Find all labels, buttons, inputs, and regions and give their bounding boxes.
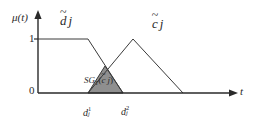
sg-prefix: SG <box>84 75 95 85</box>
subscript-j: j <box>88 111 90 117</box>
fuzzy-membership-figure: μ(t) 1 0 t ~dj ~cj SGT(~cj) d1j d2j <box>0 0 255 132</box>
d-subscript-j: j <box>69 13 73 28</box>
tilde-accent: ~ <box>101 71 105 79</box>
c-tilde-letter: ~c <box>152 17 158 30</box>
x-mark-label-d-j-1: d1j <box>83 108 88 118</box>
y-axis-arrowhead <box>34 10 41 19</box>
y-tick-label-zero: 0 <box>29 85 35 96</box>
x-axis-arrowhead <box>229 89 238 96</box>
d-tilde-letter: ~d <box>60 14 67 27</box>
d-letter-2: d2j <box>121 107 126 117</box>
d-tilde-curve-label: ~dj <box>60 14 72 27</box>
d-letter-1: d1j <box>83 108 88 118</box>
y-tick-label-one: 1 <box>29 33 35 44</box>
tilde-accent: ~ <box>152 10 158 22</box>
c-subscript-j: j <box>160 16 164 31</box>
x-axis-label: t <box>240 86 243 97</box>
c-tilde-curve-label: ~cj <box>152 17 163 30</box>
shaded-region-label: SGT(~cj) <box>84 76 113 86</box>
y-axis-label: μ(t) <box>12 12 28 23</box>
sg-close-paren: ) <box>110 75 113 85</box>
tilde-accent: ~ <box>60 7 66 19</box>
x-mark-label-d-j-2: d2j <box>121 107 126 117</box>
sg-arg-c-tilde: ~c <box>101 76 105 85</box>
subscript-j: j <box>126 110 128 116</box>
